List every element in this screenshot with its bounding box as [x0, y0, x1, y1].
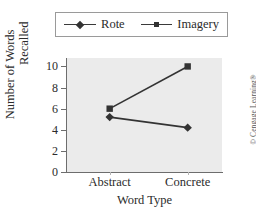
copyright-credit: © Cengage Learning® [249, 62, 257, 158]
y-axis-title: Number of Words Recalled [3, 15, 32, 133]
y-axis-title-line2: Recalled [17, 15, 31, 133]
x-axis-title: Word Type [66, 194, 223, 207]
series-line-rote [110, 117, 188, 128]
data-point-diamond-marker [183, 123, 191, 131]
figure-container: Rote Imagery 0246810 AbstractConcrete Wo… [0, 0, 256, 214]
data-point-square-marker [106, 105, 112, 111]
data-point-square-marker [184, 63, 190, 69]
series-line-imagery [110, 66, 188, 108]
data-series-layer [0, 0, 256, 214]
y-axis-title-line1: Number of Words [3, 30, 17, 120]
data-point-diamond-marker [105, 113, 113, 121]
